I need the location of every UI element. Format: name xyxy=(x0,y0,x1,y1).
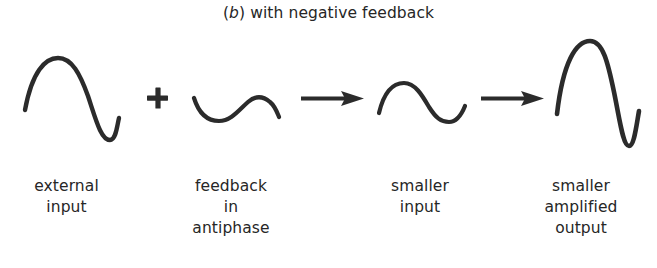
waveform-smaller-amplified-output xyxy=(557,41,639,146)
label-smaller-amplified-output: smaller amplified output xyxy=(505,176,657,239)
label-external-input: external input xyxy=(0,176,133,218)
label-feedback-in-antiphase: feedback in antiphase xyxy=(150,176,312,239)
plus-icon xyxy=(147,88,168,109)
waveform-external-input xyxy=(25,58,119,140)
arrow-1-icon xyxy=(301,91,364,106)
figure-negative-feedback: (b) with negative feedback external inpu… xyxy=(0,0,657,268)
waveform-smaller-input xyxy=(379,83,465,122)
arrow-2-icon xyxy=(481,91,544,106)
label-smaller-input: smaller input xyxy=(345,176,495,218)
waveform-feedback-antiphase xyxy=(194,97,279,121)
